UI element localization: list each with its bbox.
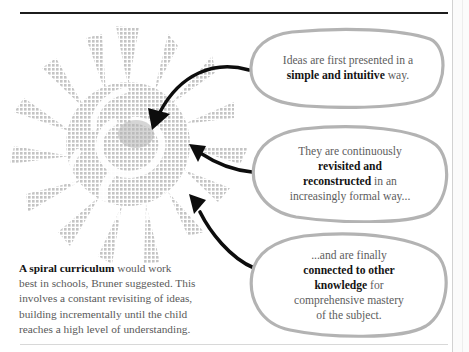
text-line: revisited and bbox=[318, 159, 382, 174]
text-run: for bbox=[367, 279, 383, 292]
spiral-starburst-graphic bbox=[8, 24, 248, 272]
text-run: ...and are finally bbox=[311, 249, 387, 262]
text-run-bold: knowledge bbox=[314, 279, 367, 292]
text-run: of the subject. bbox=[316, 309, 381, 322]
text-line: involves a constant revisiting of ideas, bbox=[19, 291, 241, 306]
page-canvas: Ideas are first presented in asimple and… bbox=[0, 0, 469, 352]
right-page-divider bbox=[452, 0, 453, 352]
text-line: building incrementally until the child bbox=[19, 307, 241, 322]
text-line: knowledge for bbox=[314, 278, 383, 293]
caption-paragraph: A spiral curriculum would workbest in sc… bbox=[19, 261, 241, 337]
text-run: in an bbox=[371, 175, 397, 188]
text-line: best in schools, Bruner suggested. This bbox=[19, 276, 241, 291]
right-gutter bbox=[453, 0, 469, 352]
text-run-bold: simple and intuitive bbox=[287, 69, 385, 82]
right-page-divider-secondary bbox=[462, 0, 463, 352]
text-run: involves a constant revisiting of ideas, bbox=[19, 292, 192, 304]
text-line: A spiral curriculum would work bbox=[19, 261, 241, 276]
text-line: comprehensive mastery bbox=[294, 293, 404, 308]
speech-bubble-1: Ideas are first presented in asimple and… bbox=[248, 27, 448, 109]
text-run: increasingly formal way... bbox=[290, 190, 411, 203]
text-run: comprehensive mastery bbox=[294, 294, 404, 307]
text-run: They are continuously bbox=[298, 145, 402, 158]
text-line: simple and intuitive way. bbox=[287, 68, 409, 83]
text-run-bold: A spiral curriculum bbox=[19, 262, 114, 274]
text-run-bold: revisited and bbox=[318, 160, 382, 173]
text-run: reaches a high level of understanding. bbox=[19, 323, 190, 335]
text-line: Ideas are first presented in a bbox=[283, 53, 413, 68]
text-line: connected to other bbox=[303, 263, 394, 278]
text-run: best in schools, Bruner suggested. This bbox=[19, 277, 195, 289]
text-line: of the subject. bbox=[316, 308, 381, 323]
text-run: would work bbox=[114, 262, 171, 274]
text-run-bold: connected to other bbox=[303, 264, 394, 277]
text-line: increasingly formal way... bbox=[290, 189, 411, 204]
text-line: ...and are finally bbox=[311, 248, 387, 263]
speech-bubble-3-text: ...and are finallyconnected to otherknow… bbox=[248, 232, 450, 338]
text-line: reaches a high level of understanding. bbox=[19, 322, 241, 337]
text-run: building incrementally until the child bbox=[19, 308, 187, 320]
text-run-bold: reconstructed bbox=[303, 175, 371, 188]
top-horizontal-rule bbox=[20, 12, 448, 14]
speech-bubble-3: ...and are finallyconnected to otherknow… bbox=[248, 232, 450, 338]
text-run: way. bbox=[385, 69, 409, 82]
speech-bubble-2: They are continuouslyrevisited andrecons… bbox=[250, 125, 450, 223]
text-run: Ideas are first presented in a bbox=[283, 54, 413, 67]
text-line: They are continuously bbox=[298, 144, 402, 159]
text-line: reconstructed in an bbox=[303, 174, 397, 189]
speech-bubble-1-text: Ideas are first presented in asimple and… bbox=[248, 27, 448, 109]
speech-bubble-2-text: They are continuouslyrevisited andrecons… bbox=[250, 125, 450, 223]
bottom-horizontal-rule bbox=[20, 344, 448, 345]
